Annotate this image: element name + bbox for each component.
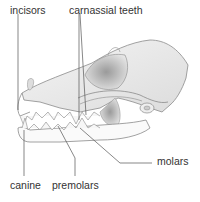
- label-canine: canine: [10, 180, 41, 191]
- label-premolars: premolars: [52, 180, 99, 191]
- label-incisors: incisors: [10, 5, 46, 16]
- skull-diagram: incisors carnassial teeth molars canine …: [0, 0, 200, 202]
- skull-illustration: [0, 0, 200, 202]
- upper-teeth: [20, 112, 100, 126]
- label-carnassial-teeth: carnassial teeth: [69, 5, 143, 16]
- label-molars: molars: [157, 156, 189, 167]
